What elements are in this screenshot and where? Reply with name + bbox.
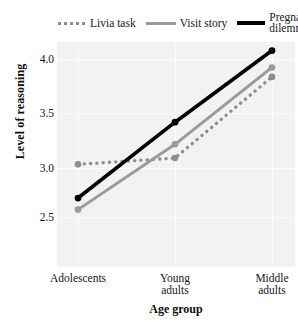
data-point: [75, 206, 82, 213]
x-tick-middle-adults: Middle adults: [234, 272, 298, 296]
y-tick-2-5: 2.5: [40, 212, 54, 223]
legend-label-pregnancy-dilemma: Pregnancy dilemma: [269, 12, 298, 34]
chart-legend: Livia task Visit story Pregnancy dilemma: [58, 8, 298, 38]
data-point: [75, 161, 82, 168]
x-tick-adolescents-line1: Adolescents: [50, 272, 106, 284]
plot-area: [57, 42, 295, 267]
legend-label-visit-story: Visit story: [180, 18, 228, 29]
dotted-gray-line-icon: [58, 22, 86, 25]
legend-item-pregnancy-dilemma: Pregnancy dilemma: [237, 12, 298, 34]
legend-item-livia-task: Livia task: [58, 18, 136, 29]
legend-label-livia-task: Livia task: [90, 18, 136, 29]
x-tick-young-adults: Young adults: [137, 272, 213, 296]
solid-gray-line-icon: [146, 22, 176, 25]
y-tick-3-0: 3.0: [40, 163, 54, 174]
data-point: [172, 155, 179, 162]
y-tick-4-0: 4.0: [40, 54, 54, 65]
series-line-visit-story: [78, 67, 272, 209]
data-point: [75, 195, 82, 202]
x-tick-adolescents: Adolescents: [40, 272, 116, 284]
x-tick-young-adults-line2: adults: [161, 284, 188, 296]
x-axis-tick-labels: Adolescents Young adults Middle adults: [57, 272, 295, 300]
data-point: [269, 47, 276, 54]
data-point: [172, 141, 179, 148]
x-axis-label: Age group: [57, 302, 295, 317]
x-tick-young-adults-line1: Young: [160, 272, 190, 284]
solid-black-line-icon: [237, 21, 265, 25]
x-tick-middle-adults-line1: Middle: [255, 272, 288, 284]
line-chart-figure: Livia task Visit story Pregnancy dilemma…: [0, 0, 298, 331]
data-point: [269, 64, 276, 71]
data-point: [172, 119, 179, 126]
series-lines: [57, 42, 295, 267]
legend-item-visit-story: Visit story: [146, 18, 228, 29]
y-axis-tick-labels: 4.0 3.5 3.0 2.5: [22, 42, 54, 267]
data-point: [269, 74, 276, 81]
y-tick-3-5: 3.5: [40, 108, 54, 119]
x-tick-middle-adults-line2: adults: [258, 284, 285, 296]
